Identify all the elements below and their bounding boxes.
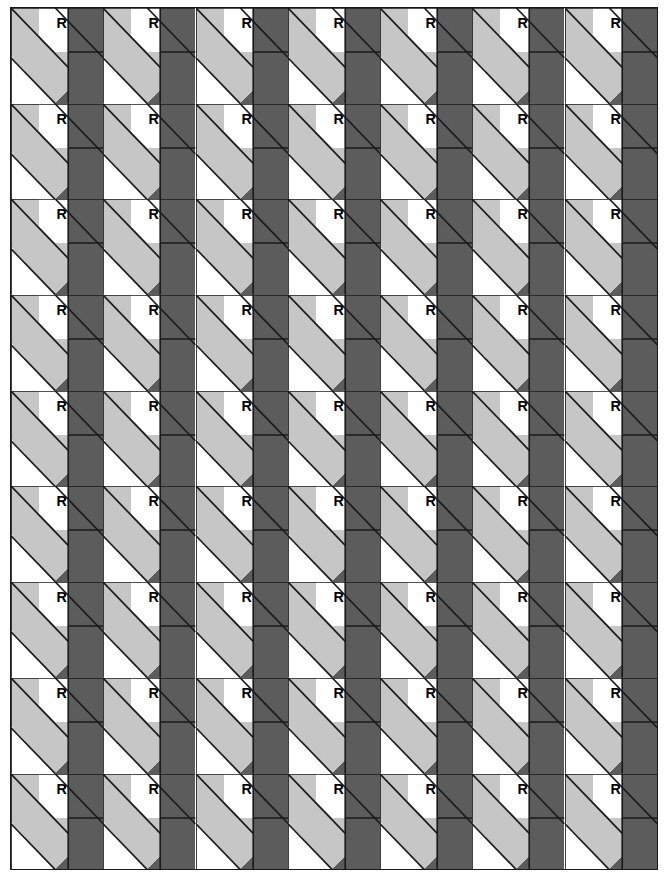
pattern-tile: R [380,104,472,200]
tile-letter: R [241,206,252,222]
pattern-tile: R [380,774,472,870]
tile-letter: R [333,589,344,605]
tile-letter: R [610,206,621,222]
pattern-tile: R [11,774,103,870]
tile-letter: R [333,15,344,31]
tile-letter: R [333,685,344,701]
tile-letter: R [610,302,621,318]
tile-letter: R [610,780,621,796]
pattern-tile: R [196,295,288,391]
pattern-tile: R [288,582,380,678]
tile-letter: R [149,398,160,414]
pattern-tile: R [380,678,472,774]
tile-letter: R [426,493,437,509]
pattern-tile: R [196,8,288,104]
pattern-tile: R [380,582,472,678]
tile-letter: R [241,111,252,127]
tile-letter: R [241,685,252,701]
pattern-frame: RRRRRRRRRRRRRRRRRRRRRRRRRRRRRRRRRRRRRRRR… [10,7,658,870]
pattern-tile: R [472,104,564,200]
pattern-tile: R [380,391,472,487]
pattern-tile: R [565,486,657,582]
pattern-tile: R [103,774,195,870]
tile-grid: RRRRRRRRRRRRRRRRRRRRRRRRRRRRRRRRRRRRRRRR… [11,8,657,869]
tile-letter: R [426,206,437,222]
pattern-tile: R [288,8,380,104]
pattern-tile: R [380,295,472,391]
tile-letter: R [149,302,160,318]
tile-letter: R [610,398,621,414]
pattern-tile: R [11,678,103,774]
tile-letter: R [241,398,252,414]
tile-letter: R [333,398,344,414]
pattern-tile: R [565,8,657,104]
tile-letter: R [333,206,344,222]
pattern-tile: R [380,486,472,582]
tile-letter: R [333,493,344,509]
tile-letter: R [518,111,529,127]
tile-letter: R [241,493,252,509]
pattern-tile: R [565,391,657,487]
pattern-tile: R [196,582,288,678]
pattern-tile: R [103,199,195,295]
tile-letter: R [610,589,621,605]
pattern-tile: R [472,8,564,104]
pattern-tile: R [472,199,564,295]
pattern-tile: R [288,678,380,774]
tile-letter: R [610,493,621,509]
pattern-tile: R [11,391,103,487]
pattern-tile: R [11,486,103,582]
pattern-tile: R [11,104,103,200]
pattern-tile: R [472,678,564,774]
pattern-tile: R [472,486,564,582]
tile-letter: R [333,780,344,796]
tile-letter: R [518,493,529,509]
tile-letter: R [241,589,252,605]
tile-letter: R [57,780,68,796]
tile-letter: R [57,302,68,318]
tile-letter: R [149,111,160,127]
pattern-tile: R [11,8,103,104]
tile-letter: R [57,685,68,701]
pattern-tile: R [196,199,288,295]
tile-letter: R [333,111,344,127]
pattern-tile: R [196,391,288,487]
pattern-tile: R [103,678,195,774]
tile-letter: R [518,685,529,701]
pattern-canvas: RRRRRRRRRRRRRRRRRRRRRRRRRRRRRRRRRRRRRRRR… [0,0,666,882]
tile-letter: R [426,15,437,31]
pattern-tile: R [11,582,103,678]
tile-letter: R [333,302,344,318]
tile-letter: R [518,206,529,222]
tile-letter: R [149,589,160,605]
tile-letter: R [149,685,160,701]
pattern-tile: R [103,104,195,200]
tile-letter: R [241,780,252,796]
pattern-tile: R [565,199,657,295]
pattern-tile: R [196,486,288,582]
pattern-tile: R [288,774,380,870]
pattern-tile: R [11,199,103,295]
pattern-tile: R [380,199,472,295]
pattern-tile: R [472,391,564,487]
pattern-tile: R [103,8,195,104]
pattern-tile: R [288,104,380,200]
tile-letter: R [426,589,437,605]
pattern-tile: R [103,486,195,582]
tile-letter: R [426,302,437,318]
tile-letter: R [518,15,529,31]
pattern-tile: R [565,104,657,200]
pattern-tile: R [380,8,472,104]
tile-letter: R [57,15,68,31]
pattern-tile: R [565,582,657,678]
pattern-tile: R [565,774,657,870]
tile-letter: R [426,111,437,127]
pattern-tile: R [103,582,195,678]
tile-letter: R [426,685,437,701]
tile-letter: R [610,15,621,31]
pattern-tile: R [11,295,103,391]
tile-letter: R [518,302,529,318]
tile-letter: R [241,15,252,31]
tile-letter: R [241,302,252,318]
pattern-tile: R [288,391,380,487]
